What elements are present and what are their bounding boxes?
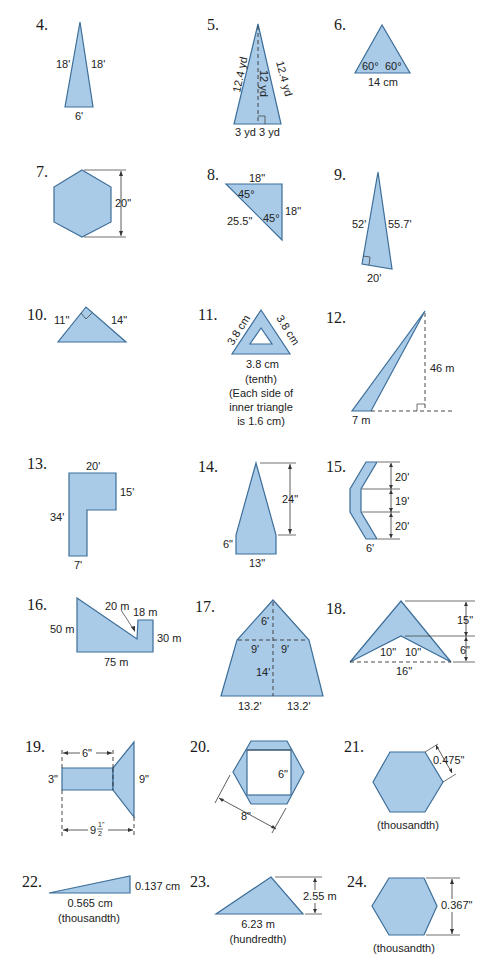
label-left: 11" (54, 314, 69, 326)
label-note-2: inner triangle (229, 401, 293, 413)
arrow-icon (464, 602, 468, 606)
figure-19: 6" 3" 9" 9 1 2 " (48, 742, 149, 838)
label-bottom: 75 m (104, 656, 128, 668)
label-note-3: is 1.6 cm) (237, 415, 285, 427)
triangle-shape (216, 877, 303, 914)
arrow-icon (389, 508, 393, 512)
right-triangle-shape (49, 876, 130, 893)
figure-10: 11" 14" (54, 307, 127, 342)
label-base-right: 3 yd (259, 126, 280, 138)
label-top: 20' (395, 471, 409, 483)
label-note-1: (Each side of (229, 387, 294, 399)
label-top: 18" (249, 172, 265, 184)
figure-22: 0.137 cm 0.565 cm (thousandth) (49, 876, 180, 924)
label-angle-top: 45° (238, 188, 255, 200)
label-precision: (thousandth) (377, 819, 439, 831)
arrow-icon (389, 490, 393, 494)
hexagon-shape (372, 878, 437, 935)
label-half-right: 9' (281, 643, 289, 655)
label-middle: 19' (395, 495, 409, 507)
arrowhead-shape (350, 601, 451, 662)
label-width: 6' (366, 542, 374, 554)
arrow-icon (119, 171, 123, 176)
label-inner-right: 10" (405, 646, 421, 658)
right-angle-mark (417, 404, 425, 411)
triangle-trapezoid-shape (221, 600, 323, 696)
label-base: 7 m (352, 414, 370, 426)
label-base: 14 cm (368, 76, 398, 88)
arrow-icon (131, 626, 135, 632)
arrow-icon (288, 529, 292, 534)
label-angle-right: 60° (385, 60, 402, 72)
label-precision: (thousandth) (373, 942, 435, 954)
label-half-left: 9' (251, 643, 259, 655)
label-triangle-height: 6' (261, 615, 269, 627)
label-base: 6' (75, 110, 83, 122)
label-side: 6" (223, 538, 233, 550)
label-base: 13" (249, 557, 265, 569)
label-angle-bottom: 45° (263, 212, 280, 224)
figure-9: 52' 55.7' 20' (352, 172, 412, 284)
arrow-icon (450, 879, 454, 884)
label-bottom: 7' (74, 559, 82, 571)
figure-14: 24" 6" 13" (223, 463, 298, 569)
label-trapezoid-height: 14' (256, 666, 270, 678)
label-total-denominator: 2 (98, 830, 102, 837)
label-base: 0.565 cm (67, 897, 112, 909)
figure-6: 60° 60° 14 cm (355, 25, 410, 88)
arrow-icon (107, 751, 112, 755)
chevron-band-shape (350, 462, 377, 539)
label-right: 0.137 cm (135, 880, 180, 892)
label-right: 18' (91, 58, 105, 70)
arrow-icon (464, 632, 468, 636)
label-inner-left: 10" (380, 646, 396, 658)
label-right: 30 m (157, 632, 181, 644)
arrow-icon (389, 513, 393, 517)
label-left: 18' (56, 58, 70, 70)
label-right: 55.7' (388, 218, 412, 230)
label-notch: 18 m (133, 606, 157, 618)
label-precision: (hundredth) (230, 933, 287, 945)
figure-21: 0.475" (thousandth) (373, 744, 465, 831)
figure-24: 0.367" (thousandth) (372, 878, 484, 954)
arrow-icon (464, 637, 468, 641)
arrow-icon (63, 751, 68, 755)
label-height: 12 yd (258, 70, 270, 97)
label-bottom-segment: 20' (395, 520, 409, 532)
figure-23: 2.55 m 6.23 m (hundredth) (216, 877, 337, 945)
label-hexagon-side: 8" (241, 810, 251, 822)
hexagon-shape (54, 170, 111, 237)
pentagon-shape (236, 463, 276, 554)
arrow-icon (450, 929, 454, 934)
label-total-whole: 9 (90, 824, 96, 836)
label-base: 6.23 m (241, 918, 275, 930)
arrow-icon (313, 909, 317, 913)
label-precision: (thousandth) (58, 912, 120, 924)
arrow-icon (313, 878, 317, 882)
obtuse-triangle-shape (352, 311, 425, 411)
label-height: 24" (282, 493, 298, 505)
figure-13: 20' 15' 34' 7' (50, 460, 134, 571)
label-left: 34' (50, 511, 64, 523)
extension-line (443, 774, 456, 782)
figure-18: 15" 6" 10" 10" 16" (350, 601, 475, 677)
label-square: 6" (278, 768, 288, 780)
label-left: 52' (352, 218, 366, 230)
figure-11: 3.8 cm 3.8 cm 3.8 cm (tenth) (Each side … (225, 310, 302, 427)
figure-8: 18" 45° 45° 18" 25.5" (226, 172, 301, 240)
label-base: 20' (367, 272, 381, 284)
label-right: 18" (285, 205, 301, 217)
figure-4: 18' 18' 6' (56, 22, 105, 122)
label-base: 3.8 cm (246, 358, 279, 370)
arrow-icon (389, 463, 393, 467)
figure-5: 12.4 yd 12.4 yd 12 yd 3 yd 3 yd (230, 24, 295, 138)
label-slope: 20 m (105, 600, 129, 612)
figure-15: 20' 19' 20' 6' (350, 462, 409, 554)
label-angle-left: 60° (362, 60, 379, 72)
label-right: 15' (120, 486, 134, 498)
label-base-left: 3 yd (235, 126, 256, 138)
label-left: 50 m (50, 623, 74, 635)
label-base-right: 13.2' (287, 700, 311, 712)
arrow-icon (219, 798, 224, 802)
label-height: 46 m (430, 362, 454, 374)
